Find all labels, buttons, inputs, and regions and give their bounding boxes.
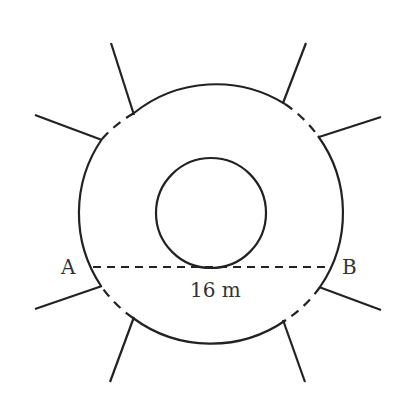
circular-garden-diagram — [0, 0, 406, 403]
inner-circle — [156, 158, 266, 268]
outer-arc-bottom — [133, 318, 286, 344]
outer-arc-dashed-lower-right — [286, 287, 320, 320]
outer-arc-right — [318, 136, 343, 287]
spoke-upper-right-top — [283, 43, 306, 103]
label-point-b: B — [342, 257, 357, 277]
label-chord-length: 16 m — [190, 280, 241, 300]
outer-arc-top — [134, 84, 285, 113]
spoke-lower-right-side — [319, 287, 381, 310]
outer-arc-left — [79, 139, 102, 286]
spoke-upper-left-top — [111, 43, 134, 115]
spoke-lower-left-bottom — [110, 317, 134, 382]
outer-arc-dashed-upper-right — [285, 104, 318, 136]
spoke-upper-right-side — [319, 117, 381, 137]
spoke-lower-left-side — [35, 286, 102, 309]
label-point-a: A — [61, 257, 75, 277]
outer-arc-dashed-lower-left — [101, 286, 133, 318]
diagram-canvas: A B 16 m — [0, 0, 406, 403]
spoke-lower-right-bottom — [283, 320, 305, 382]
spoke-upper-left-side — [35, 115, 102, 140]
outer-arc-dashed-upper-left — [102, 113, 134, 139]
